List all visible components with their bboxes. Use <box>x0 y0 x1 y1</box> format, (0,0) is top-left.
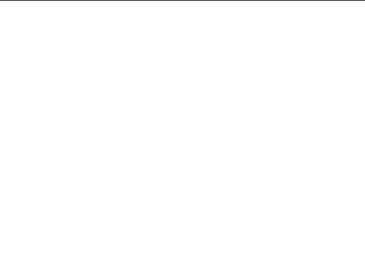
y-axis-labels: 12000 10000 8000 6000 4000 2000 0 <box>0 0 40 1</box>
bar-chart: 12000 10000 8000 6000 4000 2000 0 <box>0 0 365 1</box>
